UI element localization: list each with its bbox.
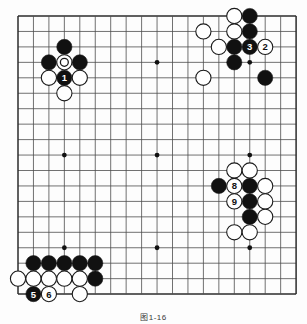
stone-move-number: 9 <box>232 196 237 207</box>
stone-body <box>72 271 87 286</box>
stone-body <box>242 178 257 193</box>
star-point <box>155 153 160 158</box>
figure-caption-area: 图1-16 <box>0 311 307 323</box>
white-stone[interactable] <box>258 209 273 224</box>
stone-body <box>227 39 242 54</box>
black-stone[interactable] <box>57 39 72 54</box>
white-stone[interactable] <box>258 178 273 193</box>
stone-body <box>227 8 242 23</box>
stone-body <box>41 55 56 70</box>
stone-body <box>242 24 257 39</box>
star-point <box>155 245 160 250</box>
star-point <box>62 245 67 250</box>
black-stone[interactable] <box>242 209 257 224</box>
stone-body <box>88 256 103 271</box>
white-stone[interactable] <box>72 70 87 85</box>
stone-body <box>258 70 273 85</box>
stone-body <box>258 178 273 193</box>
white-stone[interactable] <box>26 271 41 286</box>
stone-body <box>242 163 257 178</box>
stone-body <box>242 8 257 23</box>
go-diagram-figure: 3218956 图1-16 <box>0 0 307 324</box>
stone-body <box>242 209 257 224</box>
stone-body <box>242 194 257 209</box>
white-stone[interactable] <box>242 225 257 240</box>
black-stone[interactable]: 1 <box>57 70 72 85</box>
stone-body <box>227 55 242 70</box>
white-stone[interactable] <box>196 70 211 85</box>
white-stone[interactable] <box>227 163 242 178</box>
stone-body <box>57 256 72 271</box>
white-stone[interactable] <box>57 271 72 286</box>
stone-body <box>41 256 56 271</box>
stone-body <box>196 70 211 85</box>
stone-body <box>88 271 103 286</box>
black-stone[interactable] <box>57 256 72 271</box>
stone-body <box>258 194 273 209</box>
white-stone[interactable] <box>57 55 72 70</box>
go-board[interactable]: 3218956 <box>0 0 307 312</box>
white-stone[interactable] <box>227 225 242 240</box>
black-stone[interactable] <box>227 55 242 70</box>
white-stone[interactable] <box>41 70 56 85</box>
stone-body <box>72 70 87 85</box>
white-stone[interactable] <box>227 24 242 39</box>
white-stone[interactable] <box>242 163 257 178</box>
stone-body <box>41 70 56 85</box>
white-stone[interactable] <box>196 24 211 39</box>
white-stone[interactable] <box>258 194 273 209</box>
black-stone[interactable] <box>72 256 87 271</box>
star-point <box>247 245 252 250</box>
black-stone[interactable] <box>258 70 273 85</box>
white-stone[interactable] <box>41 271 56 286</box>
black-stone[interactable] <box>41 256 56 271</box>
black-stone[interactable] <box>242 24 257 39</box>
black-stone[interactable] <box>242 194 257 209</box>
stone-move-number: 6 <box>46 289 51 300</box>
stone-body <box>41 271 56 286</box>
stone-body <box>26 271 41 286</box>
stone-body <box>196 24 211 39</box>
white-stone[interactable] <box>211 39 226 54</box>
black-stone[interactable]: 3 <box>242 39 257 54</box>
black-stone[interactable] <box>211 178 226 193</box>
white-stone[interactable] <box>10 271 25 286</box>
black-stone[interactable] <box>242 8 257 23</box>
stone-body <box>57 39 72 54</box>
white-stone[interactable]: 2 <box>258 39 273 54</box>
stone-move-number: 2 <box>263 41 268 52</box>
white-stone[interactable]: 9 <box>227 194 242 209</box>
black-stone[interactable] <box>41 55 56 70</box>
black-stone[interactable] <box>88 256 103 271</box>
white-stone[interactable] <box>72 271 87 286</box>
white-stone[interactable] <box>227 8 242 23</box>
black-stone[interactable] <box>88 271 103 286</box>
stone-body <box>227 163 242 178</box>
stone-move-number: 8 <box>232 180 237 191</box>
stone-body <box>258 209 273 224</box>
white-stone[interactable]: 6 <box>41 287 56 302</box>
stone-body <box>227 225 242 240</box>
go-board-canvas[interactable]: 3218956 <box>0 0 307 312</box>
stone-body <box>57 55 72 70</box>
black-stone[interactable] <box>242 178 257 193</box>
stone-move-number: 5 <box>31 289 37 300</box>
star-point <box>62 153 67 158</box>
black-stone[interactable] <box>227 39 242 54</box>
black-stone[interactable] <box>26 256 41 271</box>
stone-body <box>57 271 72 286</box>
stone-body <box>10 271 25 286</box>
star-point <box>247 60 252 65</box>
stone-body <box>57 86 72 101</box>
white-stone[interactable]: 8 <box>227 178 242 193</box>
stone-body <box>72 287 87 302</box>
stone-body <box>72 256 87 271</box>
stone-body <box>211 178 226 193</box>
black-stone[interactable] <box>72 55 87 70</box>
stone-body <box>227 24 242 39</box>
black-stone[interactable]: 5 <box>26 287 41 302</box>
stone-body <box>72 55 87 70</box>
white-stone[interactable] <box>72 287 87 302</box>
white-stone[interactable] <box>57 86 72 101</box>
figure-caption: 图1-16 <box>0 311 307 322</box>
